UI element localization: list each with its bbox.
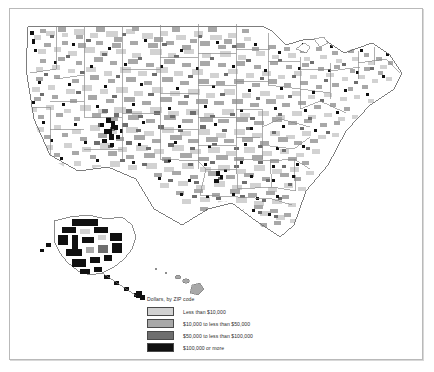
map-legend: Dollars, by ZIP code Less than $10,000 $… xyxy=(139,296,319,354)
alaska-inset xyxy=(40,215,138,297)
legend-row[interactable]: $10,000 to less than $50,000 xyxy=(139,318,319,330)
legend-swatch-class0 xyxy=(147,307,174,316)
legend-label-class2: $50,000 to less than $100,000 xyxy=(183,333,253,339)
legend-label-class3: $100,000 or more xyxy=(183,345,224,351)
legend-swatch-class3 xyxy=(147,343,174,352)
legend-row[interactable]: Less than $10,000 xyxy=(139,306,319,318)
legend-swatch-class2 xyxy=(147,331,174,340)
legend-row[interactable]: $100,000 or more xyxy=(139,342,319,354)
map-figure: Dollars, by ZIP code Less than $10,000 $… xyxy=(0,0,434,372)
map-frame: Dollars, by ZIP code Less than $10,000 $… xyxy=(9,8,423,360)
legend-title: Dollars, by ZIP code xyxy=(147,296,319,302)
legend-label-class1: $10,000 to less than $50,000 xyxy=(183,321,250,327)
legend-row[interactable]: $50,000 to less than $100,000 xyxy=(139,330,319,342)
legend-label-class0: Less than $10,000 xyxy=(183,309,226,315)
map-canvas[interactable]: Dollars, by ZIP code Less than $10,000 $… xyxy=(10,9,424,361)
legend-swatch-class1 xyxy=(147,319,174,328)
